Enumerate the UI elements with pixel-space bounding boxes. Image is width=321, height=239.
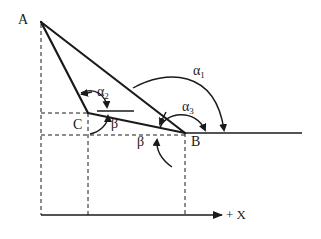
diagram-canvas: A C B α1 α2 α3 β β + X (0, 0, 321, 239)
label-point-b: B (191, 134, 200, 149)
side-ac (41, 22, 88, 113)
label-point-c: C (73, 117, 82, 132)
label-beta-c: β (111, 116, 118, 131)
label-x-axis: + X (226, 207, 247, 222)
label-alpha1: α1 (193, 63, 205, 80)
label-beta-b: β (137, 134, 144, 149)
label-point-a: A (18, 12, 29, 27)
beta-c-arc (90, 116, 108, 134)
beta-b-arc (157, 140, 172, 167)
label-alpha2: α2 (97, 84, 109, 101)
alpha3-arc (160, 115, 205, 130)
label-alpha3: α3 (182, 99, 194, 116)
triangle-vector-diagram: A C B α1 α2 α3 β β + X (0, 0, 321, 239)
